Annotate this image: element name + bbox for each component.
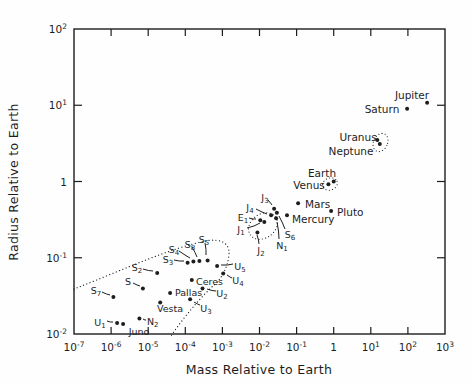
point-label-ceres: Ceres — [196, 276, 223, 287]
scatter-plot-svg: 10-710-610-510-410-310-210-1110110210310… — [0, 0, 473, 385]
data-point-saturn — [405, 107, 409, 111]
point-label-s2: S2 — [132, 262, 143, 276]
y-tick-label: 101 — [49, 98, 67, 111]
data-point-j2 — [255, 230, 259, 234]
data-point-pluto — [329, 209, 333, 213]
leader-line-s6 — [279, 216, 285, 229]
data-point-j1 — [262, 220, 266, 224]
x-axis-title: Mass Relative to Earth — [186, 362, 332, 377]
plot-generated-layer: 10-710-610-510-410-310-210-1110110210310… — [46, 22, 454, 353]
data-point-mercury — [285, 213, 289, 217]
y-tick-label: 10-2 — [46, 327, 67, 340]
point-label-u5: U5 — [234, 261, 245, 275]
point-label-j3: J3 — [260, 192, 268, 206]
data-point-j3 — [272, 207, 276, 211]
point-label-j4: J4 — [245, 202, 254, 216]
x-tick-label: 10-7 — [64, 340, 85, 353]
x-tick-label: 101 — [362, 340, 380, 353]
data-point-s5 — [206, 259, 210, 263]
point-label-n1: N1 — [276, 240, 288, 254]
data-point-e1 — [258, 218, 262, 222]
data-point-jupiter — [425, 101, 429, 105]
leader-line-u4 — [227, 275, 232, 278]
leader-line-u2 — [207, 289, 216, 291]
point-label-s4: S4 — [169, 244, 180, 258]
leader-line-e1 — [249, 218, 256, 219]
point-label-saturn: Saturn — [365, 103, 400, 115]
leader-line-n1 — [277, 222, 279, 239]
point-label-u2: U2 — [216, 288, 227, 302]
data-point-s4 — [191, 260, 195, 264]
data-point-n1 — [274, 216, 278, 220]
y-tick-label: 10-1 — [46, 251, 67, 264]
data-point-pallas — [168, 291, 172, 295]
data-point-s6 — [275, 211, 279, 215]
data-point-s7 — [111, 295, 115, 299]
point-label-mars: Mars — [305, 198, 330, 210]
point-label-jupiter: Jupiter — [394, 89, 430, 101]
point-label-j2: J2 — [256, 245, 264, 259]
leader-line-s3 — [174, 260, 184, 261]
data-point-juno — [121, 322, 125, 326]
x-tick-label: 103 — [436, 340, 454, 353]
point-label-mercury: Mercury — [292, 213, 335, 225]
point-label-s7: S7 — [91, 285, 102, 299]
point-label-earth: Earth — [308, 167, 336, 179]
leader-line-s7 — [102, 292, 110, 295]
leader-line-s2 — [143, 269, 153, 271]
point-label-u4: U4 — [232, 275, 244, 289]
point-label-s8: S8 — [185, 239, 196, 253]
point-label-s: S — [125, 276, 131, 287]
planet-mass-radius-figure: 10-710-610-510-410-310-210-1110110210310… — [0, 0, 473, 385]
point-label-pallas: Pallas — [175, 287, 202, 298]
leader-line-u1 — [107, 321, 113, 322]
x-tick-label: 10-2 — [249, 340, 270, 353]
data-point-neptune — [378, 142, 382, 146]
point-label-s3: S3 — [163, 254, 174, 268]
y-axis-title: Radius Relative to Earth — [6, 103, 21, 261]
leader-line-j2 — [257, 235, 259, 244]
x-tick-label: 10-4 — [175, 340, 196, 353]
data-point-mars — [296, 201, 300, 205]
y-tick-label: 102 — [49, 22, 67, 35]
data-point-s — [141, 287, 145, 291]
data-point-n2 — [137, 316, 141, 320]
data-point-venus — [326, 182, 330, 186]
point-label-u3: U3 — [200, 303, 211, 317]
x-tick-label: 102 — [399, 340, 417, 353]
data-point-u5 — [215, 264, 219, 268]
data-point-earth — [332, 180, 336, 184]
data-point-ceres — [190, 278, 194, 282]
y-tick-label: 1 — [60, 176, 67, 188]
data-point-u3 — [188, 297, 192, 301]
point-label-vesta: Vesta — [157, 303, 183, 314]
x-tick-label: 10-3 — [212, 340, 233, 353]
x-tick-label: 1 — [330, 341, 337, 353]
point-label-venus: Venus — [293, 179, 325, 191]
point-label-neptune: Neptune — [329, 145, 374, 157]
data-point-u1 — [115, 321, 119, 325]
point-label-s5: S5 — [199, 234, 210, 248]
leader-line-s4 — [179, 251, 190, 258]
point-label-u1: U1 — [94, 317, 105, 331]
point-label-juno: Juno — [128, 326, 150, 337]
data-point-s8 — [197, 259, 201, 263]
plot-frame — [74, 29, 445, 334]
x-tick-label: 10-1 — [286, 340, 307, 353]
point-label-pluto: Pluto — [337, 206, 363, 218]
x-tick-label: 10-6 — [101, 340, 122, 353]
point-label-uranus: Uranus — [339, 131, 376, 143]
leader-line-j4 — [256, 209, 267, 214]
leader-line-s — [133, 283, 140, 286]
data-point-s2 — [155, 271, 159, 275]
point-label-s6: S6 — [285, 229, 296, 243]
point-label-j1: J1 — [236, 224, 244, 238]
x-tick-label: 10-5 — [138, 340, 159, 353]
data-point-s3 — [186, 261, 190, 265]
leader-line-n2 — [143, 319, 146, 320]
data-point-j4 — [269, 213, 273, 217]
